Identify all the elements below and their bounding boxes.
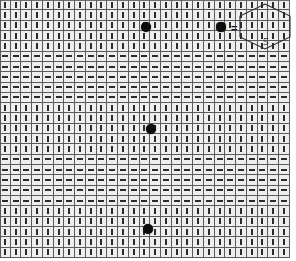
vertical-bar-icon [165, 136, 167, 142]
horizontal-bar-icon [184, 86, 190, 88]
horizontal-bar-icon [34, 55, 40, 57]
grid-cell [204, 206, 215, 216]
vertical-bar-icon [272, 12, 274, 18]
grid-cell [172, 186, 183, 196]
vertical-bar-icon [15, 2, 17, 8]
grid-cell [225, 155, 236, 165]
vertical-bar-icon [219, 22, 221, 28]
vertical-bar-icon [111, 115, 113, 121]
grid-cell [279, 206, 290, 216]
grid-cell [86, 93, 97, 103]
grid-cell [43, 0, 54, 10]
vertical-bar-icon [240, 115, 242, 121]
vertical-bar-icon [122, 105, 124, 111]
grid-cell [107, 52, 118, 62]
horizontal-bar-icon [270, 66, 276, 68]
vertical-bar-icon [133, 229, 135, 235]
grid-cell [172, 175, 183, 185]
horizontal-bar-icon [13, 179, 19, 181]
grid-cell [32, 165, 43, 175]
horizontal-bar-icon [56, 96, 62, 98]
grid-cell [182, 41, 193, 51]
grid-cell [193, 113, 204, 123]
horizontal-bar-icon [120, 86, 126, 88]
vertical-bar-icon [133, 22, 135, 28]
vertical-bar-icon [176, 33, 178, 39]
vertical-bar-icon [133, 125, 135, 131]
grid-cell [0, 93, 11, 103]
grid-cell [172, 206, 183, 216]
vertical-bar-icon [176, 229, 178, 235]
vertical-bar-icon [100, 218, 102, 224]
grid-cell [258, 206, 269, 216]
vertical-bar-icon [197, 22, 199, 28]
vertical-bar-icon [25, 43, 27, 49]
vertical-bar-icon [272, 115, 274, 121]
grid-cell [86, 227, 97, 237]
vertical-bar-icon [261, 218, 263, 224]
grid-cell [97, 113, 108, 123]
grid-cell [258, 31, 269, 41]
grid-cell [129, 21, 140, 31]
grid-cell [150, 124, 161, 134]
grid-cell [32, 144, 43, 154]
horizontal-bar-icon [152, 189, 158, 191]
grid-cell [43, 155, 54, 165]
horizontal-bar-icon [56, 55, 62, 57]
grid-cell [182, 217, 193, 227]
grid-cell [32, 113, 43, 123]
horizontal-bar-icon [2, 189, 8, 191]
horizontal-bar-icon [98, 66, 104, 68]
vertical-bar-icon [36, 115, 38, 121]
grid-cell [268, 237, 279, 247]
grid-cell [75, 175, 86, 185]
grid-cell [182, 52, 193, 62]
vertical-bar-icon [154, 2, 156, 8]
vertical-bar-icon [186, 12, 188, 18]
grid-cell [43, 10, 54, 20]
grid-cell [32, 103, 43, 113]
grid-cell [21, 41, 32, 51]
grid-cell [182, 62, 193, 72]
vertical-bar-icon [272, 2, 274, 8]
horizontal-bar-icon [109, 76, 115, 78]
grid-cell [86, 206, 97, 216]
vertical-bar-icon [261, 239, 263, 245]
horizontal-bar-icon [34, 96, 40, 98]
horizontal-bar-icon [66, 158, 72, 160]
vertical-bar-icon [251, 208, 253, 214]
vertical-bar-icon [154, 43, 156, 49]
vertical-bar-icon [25, 125, 27, 131]
grid-cell [150, 227, 161, 237]
grid-cell [258, 134, 269, 144]
vertical-bar-icon [36, 249, 38, 255]
grid-cell [21, 72, 32, 82]
horizontal-bar-icon [45, 86, 51, 88]
grid-cell [247, 72, 258, 82]
vertical-bar-icon [143, 125, 145, 131]
grid-cell [225, 134, 236, 144]
horizontal-bar-icon [270, 189, 276, 191]
grid-cell [172, 0, 183, 10]
vertical-bar-icon [47, 33, 49, 39]
horizontal-bar-icon [23, 179, 29, 181]
vertical-bar-icon [25, 239, 27, 245]
grid-cell [193, 103, 204, 113]
grid-row [0, 206, 290, 216]
vertical-bar-icon [68, 249, 70, 255]
horizontal-bar-icon [2, 76, 8, 78]
grid-cell [64, 31, 75, 41]
grid-cell [193, 248, 204, 258]
grid-cell [97, 52, 108, 62]
vertical-bar-icon [261, 146, 263, 152]
vertical-bar-icon [165, 249, 167, 255]
grid-row [0, 124, 290, 134]
horizontal-bar-icon [98, 189, 104, 191]
grid-cell [140, 113, 151, 123]
grid-cell [43, 237, 54, 247]
vertical-bar-icon [79, 115, 81, 121]
grid-cell [140, 124, 151, 134]
grid-cell [279, 10, 290, 20]
grid-cell [97, 227, 108, 237]
grid-cell [11, 175, 22, 185]
